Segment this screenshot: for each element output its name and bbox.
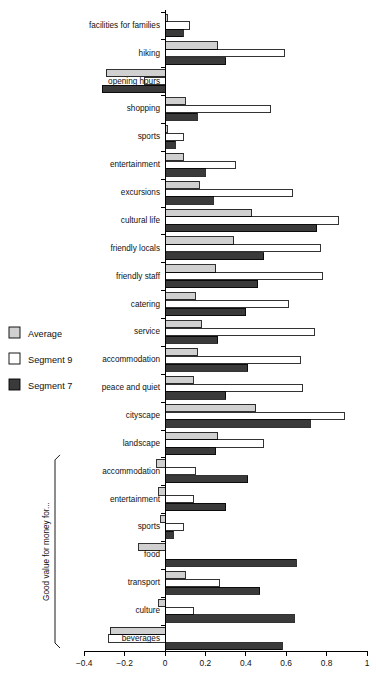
bar-segment-7-17 bbox=[165, 503, 226, 510]
group-bracket-label: Good value for money for... bbox=[42, 502, 51, 601]
bar-segment-7-21 bbox=[165, 615, 294, 622]
bar-segment-9-13 bbox=[165, 384, 302, 391]
bar-segment-9-8 bbox=[165, 245, 321, 252]
legend-swatch-segment9 bbox=[9, 353, 20, 364]
bar-segment-7-12 bbox=[165, 364, 248, 371]
x-tick-label-5: 0.6 bbox=[280, 658, 292, 668]
bar-segment-7-10 bbox=[165, 308, 246, 315]
bar-average-15 bbox=[165, 432, 218, 439]
bar-segment-9-3 bbox=[165, 105, 270, 112]
bar-segment-9-6 bbox=[165, 189, 292, 196]
bar-segment-9-5 bbox=[165, 161, 236, 168]
category-label-7: cultural life bbox=[121, 216, 161, 225]
bar-segment-7-1 bbox=[165, 58, 226, 65]
x-tick-label-1: −0.2 bbox=[116, 658, 133, 668]
bar-segment-7-15 bbox=[165, 448, 216, 455]
bar-segment-9-16 bbox=[165, 468, 195, 475]
category-label-10: catering bbox=[131, 300, 161, 309]
bar-average-11 bbox=[165, 321, 201, 328]
bar-average-20 bbox=[165, 571, 185, 578]
bar-segment-7-4 bbox=[165, 141, 175, 148]
bar-segment-7-3 bbox=[165, 113, 197, 120]
bar-average-9 bbox=[165, 265, 216, 272]
bar-segment-7-2 bbox=[102, 85, 165, 92]
bar-average-7 bbox=[165, 209, 252, 216]
bar-average-8 bbox=[165, 237, 234, 244]
bar-segment-7-19 bbox=[165, 559, 296, 566]
bar-average-13 bbox=[165, 376, 193, 383]
category-label-17: entertainment bbox=[110, 495, 161, 504]
bar-segment-7-7 bbox=[165, 225, 317, 232]
category-label-22: beverages bbox=[122, 634, 160, 643]
bar-segment-7-8 bbox=[165, 253, 264, 260]
x-tick-label-6: 0.8 bbox=[321, 658, 333, 668]
bracket-path bbox=[55, 455, 60, 648]
category-label-3: shopping bbox=[127, 104, 161, 113]
category-label-5: entertainment bbox=[110, 160, 161, 169]
x-tick-label-4: 0.4 bbox=[240, 658, 252, 668]
category-label-1: hiking bbox=[139, 49, 161, 58]
bar-segment-9-15 bbox=[165, 440, 264, 447]
zero-axis-line bbox=[161, 10, 165, 651]
x-tick-label-7: 1 bbox=[365, 658, 370, 668]
category-label-18: sports bbox=[138, 522, 160, 531]
bar-segment-7-9 bbox=[165, 280, 258, 287]
bar-average-10 bbox=[165, 293, 195, 300]
category-label-4: sports bbox=[138, 132, 160, 141]
legend-label-segment7: Segment 7 bbox=[28, 381, 72, 391]
bar-segment-9-10 bbox=[165, 301, 288, 308]
bar-segment-7-11 bbox=[165, 336, 218, 343]
bar-segment-9-7 bbox=[165, 217, 339, 224]
category-label-0: facilities for families bbox=[89, 21, 160, 30]
category-label-8: friendly locals bbox=[110, 244, 160, 253]
bar-segment-7-20 bbox=[165, 587, 260, 594]
bar-segment-9-4 bbox=[165, 133, 183, 140]
category-label-2: opening hours bbox=[108, 77, 160, 86]
category-label-21: culture bbox=[135, 606, 160, 615]
category-label-12: accommodation bbox=[102, 355, 160, 364]
bar-segment-7-0 bbox=[165, 30, 183, 37]
x-axis: −0.4−0.200.20.40.60.81 bbox=[76, 651, 370, 668]
bar-segment-7-14 bbox=[165, 420, 310, 427]
group-bracket: Good value for money for... bbox=[42, 455, 60, 648]
x-tick-label-2: 0 bbox=[163, 658, 168, 668]
legend: AverageSegment 9Segment 7 bbox=[9, 327, 72, 391]
bar-average-6 bbox=[165, 181, 199, 188]
bar-segment-9-18 bbox=[165, 523, 183, 530]
bar-average-14 bbox=[165, 404, 256, 411]
category-label-11: service bbox=[134, 327, 160, 336]
bar-segment-7-13 bbox=[165, 392, 226, 399]
legend-label-segment9: Segment 9 bbox=[28, 355, 72, 365]
bar-segment-9-21 bbox=[165, 607, 193, 614]
bar-segment-7-22 bbox=[165, 643, 282, 650]
bar-segment-9-17 bbox=[165, 496, 193, 503]
legend-swatch-segment7 bbox=[9, 379, 20, 390]
bar-chart-panel: AverageSegment 9Segment 7 facilities for… bbox=[0, 0, 376, 683]
category-label-15: landscape bbox=[123, 439, 161, 448]
category-labels: facilities for familieshikingopening hou… bbox=[89, 21, 161, 643]
bar-segment-9-12 bbox=[165, 356, 300, 363]
category-label-19: food bbox=[144, 550, 160, 559]
bar-segment-9-20 bbox=[165, 579, 220, 586]
category-label-16: accommodation bbox=[102, 467, 160, 476]
bar-segment-7-5 bbox=[165, 169, 205, 176]
bar-segment-9-1 bbox=[165, 50, 284, 57]
bar-segment-9-14 bbox=[165, 412, 345, 419]
bar-segment-7-16 bbox=[165, 476, 248, 483]
x-tick-label-0: −0.4 bbox=[76, 658, 93, 668]
bar-average-12 bbox=[165, 348, 197, 355]
category-label-14: cityscape bbox=[126, 411, 161, 420]
bar-segment-9-0 bbox=[165, 22, 189, 29]
bar-segment-7-6 bbox=[165, 197, 213, 204]
bar-average-18 bbox=[161, 516, 165, 523]
bar-average-3 bbox=[165, 98, 185, 105]
bar-average-5 bbox=[165, 153, 183, 160]
bar-segment-9-11 bbox=[165, 328, 314, 335]
category-label-6: excursions bbox=[121, 188, 160, 197]
legend-label-average: Average bbox=[28, 329, 62, 339]
chart-svg: AverageSegment 9Segment 7 facilities for… bbox=[0, 0, 376, 683]
bar-average-1 bbox=[165, 42, 218, 49]
legend-swatch-average bbox=[9, 327, 20, 338]
category-label-13: peace and quiet bbox=[102, 383, 161, 392]
bar-segment-7-18 bbox=[165, 531, 173, 538]
